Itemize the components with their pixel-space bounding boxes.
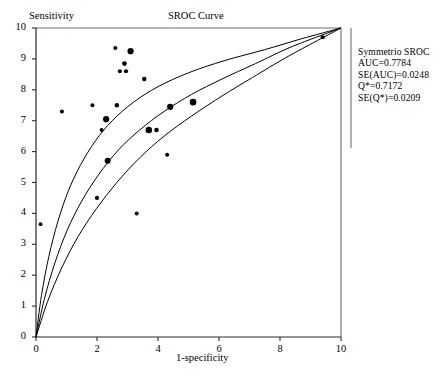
y-tick-label: 10 bbox=[4, 21, 26, 32]
x-tick-label: 2 bbox=[86, 343, 108, 354]
axis-ticks bbox=[32, 28, 341, 341]
stats-auc: AUC=0.7784 bbox=[358, 57, 442, 68]
y-tick-label: 5 bbox=[4, 176, 26, 187]
study-point bbox=[115, 103, 119, 107]
plot-frame bbox=[36, 28, 341, 337]
sroc-chart-figure: Sensitivity SROC Curve 1-specificity 012… bbox=[0, 0, 442, 378]
y-tick-label: 4 bbox=[4, 206, 26, 217]
study-point bbox=[154, 128, 159, 133]
study-point bbox=[167, 104, 173, 110]
study-point bbox=[60, 109, 64, 113]
x-tick-label: 6 bbox=[208, 343, 230, 354]
stats-se-q-star: SE(Q*)=0.0209 bbox=[358, 92, 442, 103]
study-point bbox=[146, 127, 152, 133]
study-point bbox=[124, 69, 128, 73]
study-point bbox=[127, 48, 133, 54]
study-point bbox=[165, 153, 169, 157]
stats-se-auc: SE(AUC)=0.0248 bbox=[358, 69, 442, 80]
y-tick-label: 6 bbox=[4, 145, 26, 156]
study-point bbox=[95, 196, 99, 200]
study-point bbox=[122, 61, 127, 66]
study-point bbox=[90, 103, 94, 107]
stats-q-star: Q*=0.7172 bbox=[358, 80, 442, 91]
sroc-curve-line bbox=[36, 28, 341, 337]
study-point bbox=[142, 77, 146, 81]
stats-title: Symmetrio SROC bbox=[358, 46, 442, 57]
study-point bbox=[113, 46, 117, 50]
study-point bbox=[39, 222, 43, 226]
x-tick-label: 10 bbox=[330, 343, 352, 354]
y-tick-label: 1 bbox=[4, 299, 26, 310]
study-point bbox=[103, 116, 109, 122]
study-point bbox=[135, 211, 139, 215]
x-tick-label: 4 bbox=[147, 343, 169, 354]
sroc-curve-line bbox=[36, 28, 341, 337]
y-tick-label: 7 bbox=[4, 114, 26, 125]
study-point bbox=[190, 99, 197, 106]
y-tick-label: 8 bbox=[4, 83, 26, 94]
study-point bbox=[100, 128, 104, 132]
study-point bbox=[321, 35, 325, 39]
study-point bbox=[118, 69, 122, 73]
x-tick-label: 8 bbox=[269, 343, 291, 354]
y-tick-label: 0 bbox=[4, 330, 26, 341]
sroc-curves bbox=[36, 28, 341, 337]
y-tick-label: 9 bbox=[4, 52, 26, 63]
statistics-panel: Symmetrio SROC AUC=0.7784 SE(AUC)=0.0248… bbox=[358, 46, 442, 103]
study-points bbox=[39, 35, 325, 226]
sroc-curve-line bbox=[36, 28, 341, 337]
x-tick-label: 0 bbox=[25, 343, 47, 354]
y-tick-label: 3 bbox=[4, 237, 26, 248]
y-tick-label: 2 bbox=[4, 268, 26, 279]
study-point bbox=[105, 158, 111, 164]
